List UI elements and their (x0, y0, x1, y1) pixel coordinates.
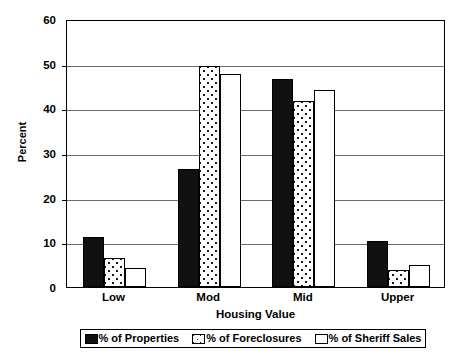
legend-swatch-icon (85, 334, 98, 344)
plot-area (66, 20, 445, 288)
y-axis-tick-label: 10 (28, 237, 56, 249)
bar-mid-series-0 (272, 79, 293, 287)
y-axis-title: Percent (16, 102, 28, 182)
legend-label: % of Sheriff Sales (329, 333, 422, 344)
x-axis-tick-label: Mid (263, 291, 343, 303)
legend: % of Properties% of Foreclosures% of She… (80, 329, 426, 348)
legend-item: % of Properties (85, 333, 180, 344)
x-axis-title: Housing Value (66, 308, 445, 320)
bar-chart: Percent 0102030405060 LowModMidUpper Hou… (0, 0, 462, 355)
bar-mid-series-2 (314, 90, 335, 287)
y-axis-tick-label: 50 (28, 59, 56, 71)
y-axis-tick-label: 0 (28, 282, 56, 294)
y-axis-tick-label: 60 (28, 14, 56, 26)
bar-mod-series-2 (220, 74, 241, 288)
bar-low-series-1 (104, 258, 125, 287)
bar-low-series-2 (125, 268, 146, 287)
legend-swatch-icon (315, 334, 328, 344)
bar-mid-series-1 (293, 101, 314, 287)
bar-upper-series-2 (409, 265, 430, 287)
x-axis-tick-label: Low (73, 291, 153, 303)
x-axis-tick-label: Upper (358, 291, 438, 303)
legend-item: % of Sheriff Sales (315, 333, 422, 344)
legend-label: % of Foreclosures (206, 333, 301, 344)
bar-low-series-0 (83, 237, 104, 287)
bar-mod-series-1 (199, 66, 220, 287)
bar-upper-series-0 (367, 241, 388, 287)
legend-swatch-icon (192, 334, 205, 344)
bar-upper-series-1 (388, 270, 409, 287)
bar-mod-series-0 (178, 169, 199, 287)
bars-layer (67, 21, 444, 287)
y-axis-tick-label: 40 (28, 103, 56, 115)
y-axis-tick-label: 30 (28, 148, 56, 160)
y-axis-tick-label: 20 (28, 193, 56, 205)
legend-label: % of Properties (99, 333, 180, 344)
x-axis-tick-label: Mod (168, 291, 248, 303)
legend-item: % of Foreclosures (192, 333, 301, 344)
